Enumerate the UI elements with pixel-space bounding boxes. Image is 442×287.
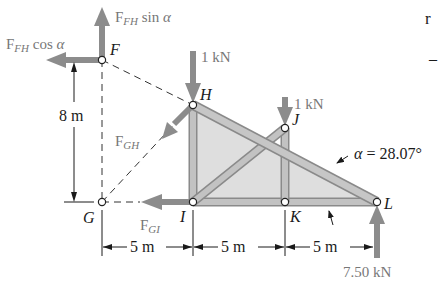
- cut-members: [102, 60, 193, 202]
- height-dimension: [64, 62, 94, 202]
- margin-fragment-dash: –: [428, 50, 438, 67]
- node-h: [189, 101, 196, 108]
- label-f: F: [109, 41, 120, 58]
- label-l: L: [383, 195, 393, 212]
- background-text: r –: [425, 9, 438, 67]
- dim-8m-label: 8 m: [59, 107, 84, 124]
- label-g: G: [83, 209, 95, 226]
- load-j-arrowhead-icon: [277, 107, 293, 126]
- dim-gi-label: 5 m: [130, 238, 155, 255]
- node-i: [189, 198, 196, 205]
- label-i: I: [179, 208, 186, 225]
- dim-gi-arrow-left-icon: [103, 244, 112, 250]
- angle-symbol: α= 28.07°: [354, 145, 422, 162]
- force-gi-arrowhead-icon: [141, 194, 162, 210]
- dim-kl-arrow-left-icon: [286, 244, 295, 250]
- force-fh-sin-arrowhead-icon: [94, 7, 110, 26]
- label-k: K: [289, 208, 302, 225]
- reaction-l-arrowhead-icon: [369, 205, 385, 224]
- dim-8m-arrow-down-icon: [71, 192, 77, 202]
- label-j: J: [292, 111, 300, 128]
- dim-kl-arrow-right-icon: [364, 244, 373, 250]
- force-gi-shaft: [160, 199, 193, 205]
- label-f-gi: FGI: [140, 217, 161, 235]
- truss-diagram: r –: [0, 0, 442, 287]
- cut-line-fh: [102, 60, 193, 105]
- dim-ik-arrow-right-icon: [275, 244, 284, 250]
- node-k: [281, 198, 288, 205]
- force-fh-cos-arrowhead-icon: [46, 52, 66, 68]
- label-load-j: 1 kN: [294, 96, 324, 112]
- dim-gi-arrow-right-icon: [183, 244, 192, 250]
- label-f-fh-sin: FFH sin α: [115, 9, 172, 27]
- reaction-l-shaft: [374, 222, 380, 258]
- label-f-gh: FGH: [115, 133, 140, 151]
- dim-8m-arrow-up-icon: [71, 62, 77, 72]
- load-h-arrowhead-icon: [185, 83, 201, 103]
- node-g: [98, 198, 105, 205]
- dim-kl-label: 5 m: [313, 238, 338, 255]
- angle-leader-bottom: [329, 211, 333, 225]
- label-f-fh-cos: FFH cos α: [6, 36, 66, 54]
- node-l: [373, 198, 380, 205]
- angle-leader-top: [337, 156, 348, 163]
- label-reaction-l: 7.50 kN: [343, 264, 392, 280]
- label-load-h: 1 kN: [201, 49, 231, 65]
- load-h-shaft: [190, 51, 196, 85]
- dim-ik-label: 5 m: [221, 238, 246, 255]
- node-f: [98, 56, 105, 63]
- margin-fragment-r: r: [425, 9, 431, 28]
- force-fh-cos-shaft: [64, 57, 102, 63]
- force-fh-sin-shaft: [99, 24, 105, 60]
- node-j: [281, 124, 288, 131]
- label-h: H: [199, 86, 213, 103]
- dim-ik-arrow-left-icon: [194, 244, 203, 250]
